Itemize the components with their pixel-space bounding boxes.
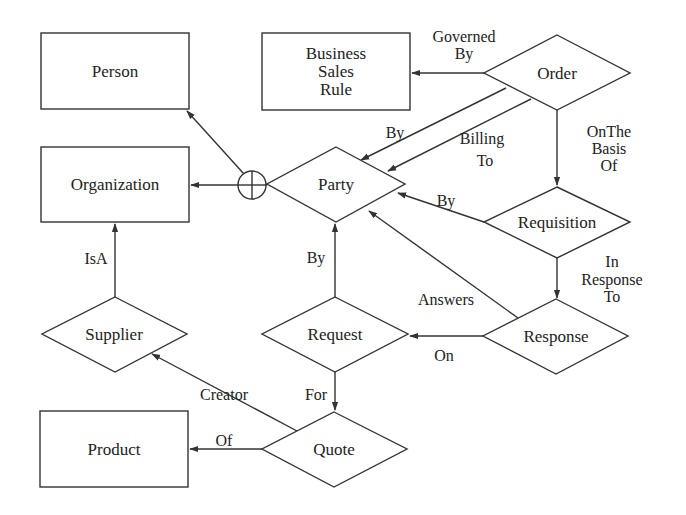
relationship-label: Order — [537, 64, 577, 83]
relationship-response[interactable]: Response — [483, 299, 628, 374]
label-answers: Answers — [418, 291, 474, 308]
edge-union-to-person — [187, 111, 244, 174]
entity-business-sales-rule[interactable]: Business Sales Rule — [262, 33, 410, 110]
entity-organization[interactable]: Organization — [41, 147, 189, 222]
label-in-response-to-line-3: To — [604, 288, 621, 305]
relationship-label: Response — [523, 327, 588, 346]
relationship-order[interactable]: Order — [484, 35, 630, 110]
relationship-requisition[interactable]: Requisition — [484, 187, 630, 258]
entity-label-line-1: Business — [306, 44, 366, 63]
relationship-label: Requisition — [518, 213, 597, 232]
label-isa: IsA — [84, 250, 108, 267]
entity-label: Person — [92, 62, 139, 81]
entity-label-line-2: Sales — [318, 62, 354, 81]
er-diagram: Person Business Sales Rule Organization … — [0, 0, 686, 515]
label-on-the-basis-of-line-1: OnThe — [587, 123, 631, 140]
circle-plus-icon — [238, 171, 266, 199]
label-governed-by-line-2: By — [455, 45, 474, 63]
label-requisition-party-by: By — [437, 192, 456, 210]
relationship-request[interactable]: Request — [262, 297, 408, 372]
relationship-label: Quote — [313, 440, 355, 459]
label-governed-by-line-1: Governed — [432, 28, 495, 45]
entity-label: Organization — [71, 175, 160, 194]
label-on-the-basis-of-line-3: Of — [601, 157, 619, 174]
label-for: For — [305, 386, 328, 403]
relationship-label: Party — [318, 175, 354, 194]
entity-product[interactable]: Product — [40, 411, 188, 487]
relationship-label: Supplier — [85, 325, 143, 344]
label-request-party-by: By — [307, 249, 326, 267]
label-order-party-by: By — [386, 124, 405, 142]
label-billing-to-line-1: Billing — [460, 130, 504, 148]
label-in-response-to-line-1: In — [605, 253, 618, 270]
entity-label-line-3: Rule — [320, 80, 352, 99]
label-of: Of — [216, 432, 234, 449]
label-billing-to-line-2: To — [477, 152, 494, 169]
label-on: On — [434, 347, 454, 364]
relationship-party[interactable]: Party — [267, 147, 405, 222]
label-creator: Creator — [200, 386, 249, 403]
entity-person[interactable]: Person — [41, 33, 189, 109]
entity-label: Product — [88, 440, 141, 459]
label-in-response-to-line-2: Response — [581, 271, 642, 289]
relationship-label: Request — [308, 325, 363, 344]
label-on-the-basis-of-line-2: Basis — [592, 140, 627, 157]
